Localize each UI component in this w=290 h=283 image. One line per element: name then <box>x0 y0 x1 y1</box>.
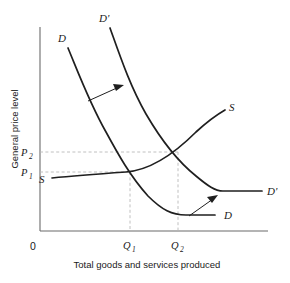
aggregate-demand-supply-figure: D D' D D' S S P 2 P 1 Q 1 Q 2 0 General … <box>0 0 290 283</box>
shift-arrow-upper-line <box>88 87 119 101</box>
shift-arrow-lower-line <box>189 199 213 216</box>
x-tick-q2-subscript: 2 <box>180 245 184 254</box>
shift-arrow-lower <box>189 195 218 216</box>
x-tick-q1-subscript: 1 <box>132 245 136 254</box>
demand-curve-d <box>68 48 215 215</box>
curves-group <box>52 28 262 215</box>
curve-label-d-prime-right: D' <box>266 185 278 197</box>
origin-label: 0 <box>30 240 36 252</box>
x-tick-q1: Q 1 <box>123 240 136 254</box>
curve-label-s-left: S <box>39 173 45 185</box>
y-tick-p2-label: P <box>20 147 28 158</box>
curve-label-d-top: D <box>57 32 66 44</box>
x-tick-q2: Q 2 <box>171 240 184 254</box>
curve-label-d-prime-top: D' <box>98 12 110 24</box>
demand-curve-d-prime <box>110 28 262 191</box>
y-tick-p1-label: P <box>20 167 28 178</box>
y-tick-p1: P 1 <box>20 167 33 181</box>
y-axis-title: General price level <box>9 89 20 168</box>
guide-lines-group <box>40 152 178 231</box>
supply-curve-s <box>52 110 225 178</box>
axes-group <box>40 27 268 231</box>
x-tick-q1-label: Q <box>123 240 131 251</box>
x-tick-q2-label: Q <box>171 240 179 251</box>
x-axis-title: Total goods and services produced <box>74 259 221 270</box>
y-tick-p1-subscript: 1 <box>29 172 33 181</box>
shift-arrow-upper-head <box>113 84 124 91</box>
y-tick-p2: P 2 <box>20 147 33 161</box>
diagram-canvas: D D' D D' S S P 2 P 1 Q 1 Q 2 0 General … <box>0 0 290 283</box>
curve-label-s-right: S <box>229 101 235 113</box>
y-tick-p2-subscript: 2 <box>29 152 33 161</box>
curve-label-d-right: D <box>223 209 232 221</box>
shift-arrow-upper <box>88 84 124 101</box>
